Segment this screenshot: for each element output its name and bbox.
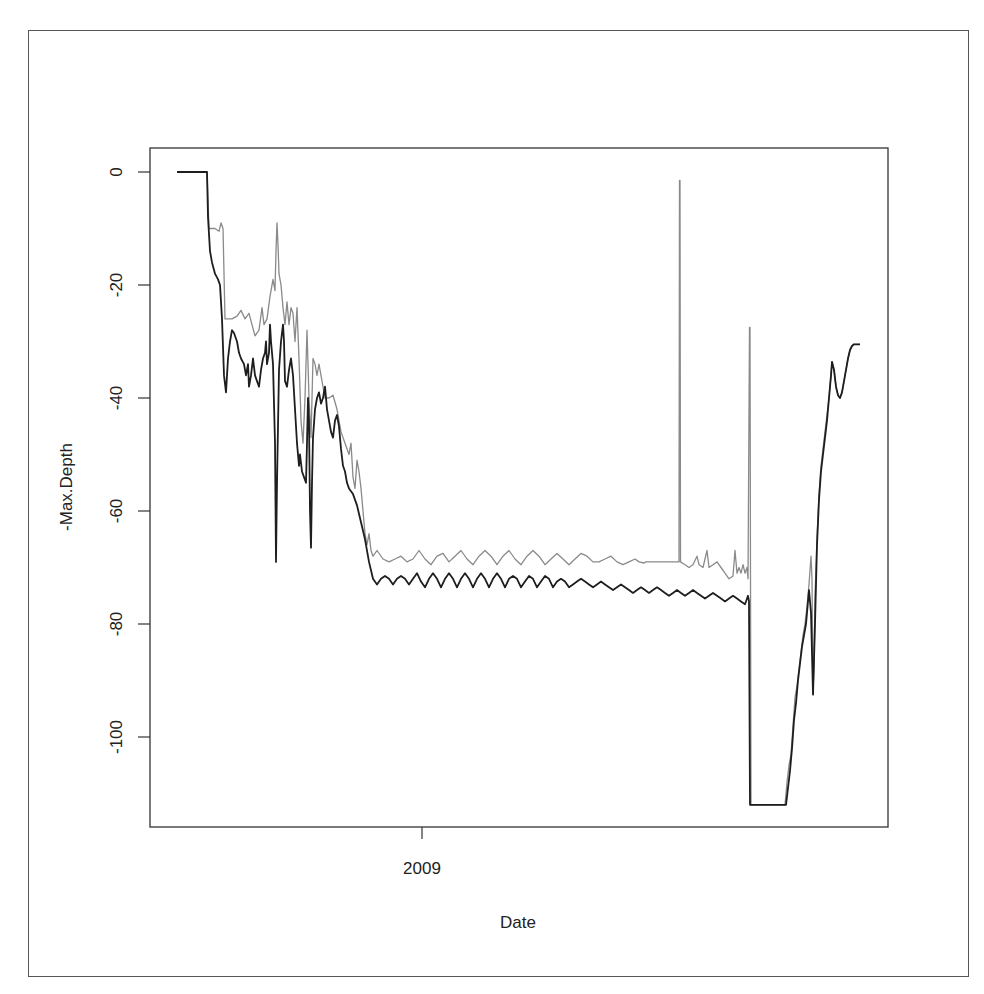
x-axis-label: Date bbox=[500, 913, 536, 932]
y-tick-label: -20 bbox=[107, 273, 126, 298]
series-gray-line bbox=[177, 172, 860, 805]
y-tick-label: -100 bbox=[107, 720, 126, 754]
series-black-line bbox=[177, 172, 860, 805]
y-tick-label: 0 bbox=[107, 167, 126, 176]
line-chart: 0-20-40-60-80-100 2009 Date -Max.Depth bbox=[0, 0, 984, 994]
y-axis: 0-20-40-60-80-100 bbox=[107, 167, 150, 754]
plot-area-box bbox=[150, 148, 888, 827]
y-tick-label: -60 bbox=[107, 499, 126, 524]
x-axis: 2009 bbox=[403, 827, 441, 878]
y-tick-label: -80 bbox=[107, 612, 126, 637]
series-layer bbox=[177, 172, 860, 805]
x-tick-label: 2009 bbox=[403, 859, 441, 878]
y-tick-label: -40 bbox=[107, 386, 126, 411]
y-axis-label: -Max.Depth bbox=[57, 443, 76, 531]
